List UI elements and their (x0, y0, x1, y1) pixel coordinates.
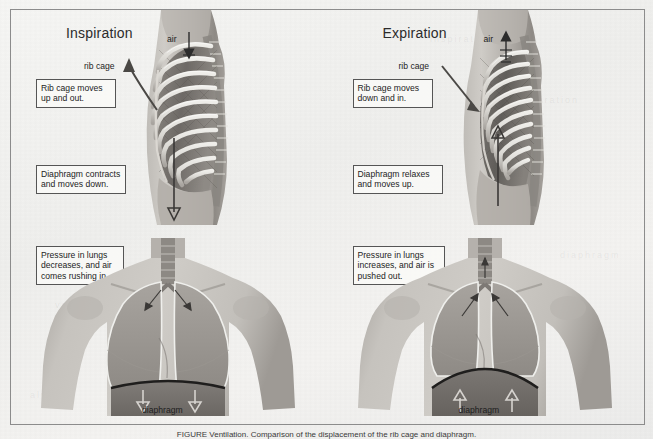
rib-cage-label-expiration: rib cage (399, 61, 430, 71)
figure-frame: Inspiration (10, 9, 645, 425)
air-label-inspiration: air (167, 34, 177, 44)
anterior-torso-illustration-inspiration (11, 238, 329, 423)
rib-cage-label-inspiration: rib cage (84, 61, 115, 71)
callout-diaphragm-inspiration: Diaphragm contracts and moves down. (36, 165, 126, 194)
diaphragm-label-expiration: diaphragm (459, 405, 500, 415)
diaphragm-label-inspiration: diaphragm (142, 405, 183, 415)
air-label-expiration: air (484, 34, 494, 44)
anterior-torso-illustration-expiration (328, 238, 646, 423)
callout-diaphragm-expiration: Diaphragm relaxes and moves up. (353, 165, 443, 194)
figure-caption: FIGURE Ventilation. Comparison of the di… (0, 430, 653, 439)
callout-rib-cage-inspiration: Rib cage moves up and out. (36, 79, 116, 108)
panel-expiration: Expiration (328, 10, 645, 424)
callout-rib-cage-expiration: Rib cage moves down and in. (353, 79, 433, 108)
panel-inspiration: Inspiration (11, 10, 328, 424)
